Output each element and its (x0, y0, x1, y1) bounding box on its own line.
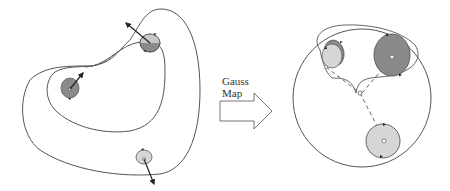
image-region-top-right (374, 34, 410, 77)
surface-point-bottom (136, 148, 154, 184)
sphere-center-point (358, 91, 362, 95)
unit-sphere (293, 29, 431, 167)
geodesic-dashed (326, 67, 360, 93)
geodesic-dashed (360, 93, 378, 128)
image-region-top-left (322, 38, 346, 68)
seam-dashed (85, 50, 120, 67)
surface-point-middle-left (61, 73, 83, 100)
surface-panel (23, 9, 200, 184)
gauss-sphere-panel (293, 25, 431, 167)
outer-boundary-curve (23, 9, 200, 175)
gauss-label-line1: Gauss (222, 75, 249, 87)
image-region-bottom (366, 123, 400, 158)
gauss-label-line2: Map (222, 87, 242, 99)
